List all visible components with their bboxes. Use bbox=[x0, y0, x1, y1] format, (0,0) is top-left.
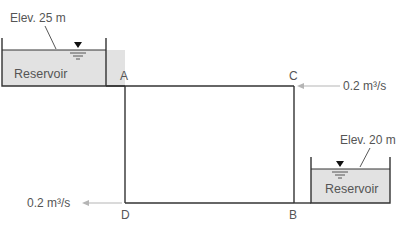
node-label-C: C bbox=[289, 70, 298, 82]
left-reservoir-label: Reservoir bbox=[14, 68, 68, 81]
elevation-leader-line bbox=[45, 26, 56, 49]
node-label-B: B bbox=[289, 209, 297, 221]
flow-label-D: 0.2 m³/s bbox=[27, 197, 70, 209]
left-reservoir-elevation: Elev. 25 m bbox=[10, 12, 66, 24]
pipe-loop bbox=[106, 86, 311, 203]
right-reservoir-label: Reservoir bbox=[325, 183, 379, 196]
inflow-arrow-C bbox=[297, 83, 340, 89]
right-reservoir-elevation: Elev. 20 m bbox=[340, 134, 396, 146]
elevation-leader-line bbox=[360, 148, 370, 167]
node-label-A: A bbox=[120, 70, 128, 82]
node-label-D: D bbox=[121, 209, 130, 221]
outflow-arrow-D bbox=[82, 200, 122, 206]
flow-label-C: 0.2 m³/s bbox=[343, 80, 386, 92]
